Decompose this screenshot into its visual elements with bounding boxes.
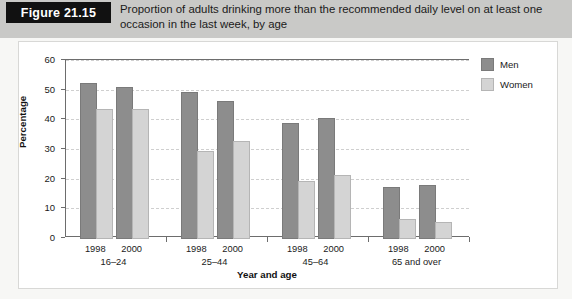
legend-label-men: Men [500,59,519,70]
y-axis-tick [61,237,65,238]
y-axis-tick-label: 10 [35,202,55,213]
bar-men [282,123,299,239]
chart-legend: Men Women [481,58,553,98]
x-axis-year-label: 1998 [287,244,308,254]
bar-women [399,219,416,239]
bar-women [435,222,452,239]
x-axis-age-group-label: 65 and over [392,257,441,267]
bar-women [233,141,250,239]
gridline [66,60,469,61]
bar-women [334,175,351,239]
x-axis-year-label: 1998 [85,244,106,254]
x-axis-group-tick [166,237,167,242]
y-axis-tick-label: 30 [35,143,55,154]
y-axis-tick-label: 40 [35,113,55,124]
bar-men [419,185,436,239]
y-axis-tick [61,59,65,60]
figure-container: Figure 21.15 Proportion of adults drinki… [0,0,572,299]
y-axis-tick [61,207,65,208]
x-axis-group-tick [368,237,369,242]
bar-men [217,101,234,239]
y-axis-title: Percentage [17,96,28,148]
legend-item-women: Women [481,78,553,91]
figure-number-tag: Figure 21.15 [6,2,111,23]
x-axis-year-label: 2000 [222,244,243,254]
x-axis-age-group-label: 16–24 [101,257,127,267]
x-axis-year-label: 2000 [323,244,344,254]
x-axis-group-tick [469,237,470,242]
chart-panel: Percentage 0102030405060 1998200016–2419… [18,41,558,289]
legend-label-women: Women [500,79,533,90]
bar-men [80,83,97,239]
y-axis-tick [61,178,65,179]
bar-women [197,151,214,239]
bar-men [383,187,400,239]
bar-men [318,118,335,239]
x-axis-year-label: 1998 [388,244,409,254]
legend-swatch-women-icon [481,78,494,91]
bar-men [116,87,133,239]
bar-women [298,181,315,239]
x-axis-year-label: 1998 [186,244,207,254]
y-axis-tick [61,89,65,90]
y-axis-tick-label: 20 [35,172,55,183]
legend-swatch-men-icon [481,58,494,71]
figure-caption: Proportion of adults drinking more than … [120,2,560,31]
y-axis-tick-label: 60 [35,54,55,65]
y-axis-tick-label: 50 [35,83,55,94]
x-axis-age-group-label: 45–64 [303,257,329,267]
y-axis-tick [61,118,65,119]
y-axis-tick-label: 0 [35,232,55,243]
bar-women [96,109,113,239]
x-axis-year-label: 2000 [424,244,445,254]
x-axis-age-group-label: 25–44 [202,257,228,267]
bar-men [181,92,198,239]
figure-header-band: Figure 21.15 Proportion of adults drinki… [0,0,572,38]
y-axis-tick [61,148,65,149]
legend-item-men: Men [481,58,553,71]
x-axis-group-tick [267,237,268,242]
x-axis-title: Year and age [237,269,297,280]
bar-women [132,109,149,239]
x-axis-year-label: 2000 [121,244,142,254]
